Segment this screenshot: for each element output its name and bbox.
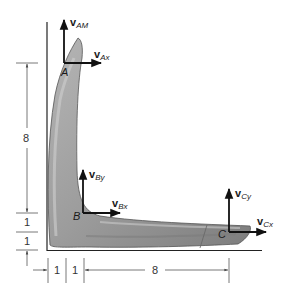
dim-left-1-upper: 1 bbox=[24, 216, 30, 228]
label-vC-vertical: vCy bbox=[235, 187, 252, 201]
bottom-dimensions bbox=[33, 258, 229, 283]
label-vA-horizontal: vAx bbox=[94, 48, 110, 62]
dim-bottom-1-right: 1 bbox=[72, 264, 78, 276]
label-vB-horizontal: vBx bbox=[112, 197, 128, 211]
dim-bottom-8: 8 bbox=[152, 264, 158, 276]
label-vC-horizontal: vCx bbox=[257, 215, 274, 229]
boomerang-diagram: vAM vAx A vBy vBx B vCy vCx C 8 1 1 bbox=[0, 0, 283, 302]
dim-left-1-lower: 1 bbox=[24, 235, 30, 247]
point-C-label: C bbox=[218, 228, 226, 240]
label-vB-vertical: vBy bbox=[89, 168, 105, 182]
label-vA-vertical: vAM bbox=[70, 16, 88, 30]
point-B-label: B bbox=[73, 210, 80, 222]
vectors-at-A: vAM vAx A bbox=[60, 16, 110, 78]
dim-left-8: 8 bbox=[23, 132, 29, 144]
dim-bottom-1-left: 1 bbox=[54, 264, 60, 276]
point-A-label: A bbox=[60, 66, 68, 78]
